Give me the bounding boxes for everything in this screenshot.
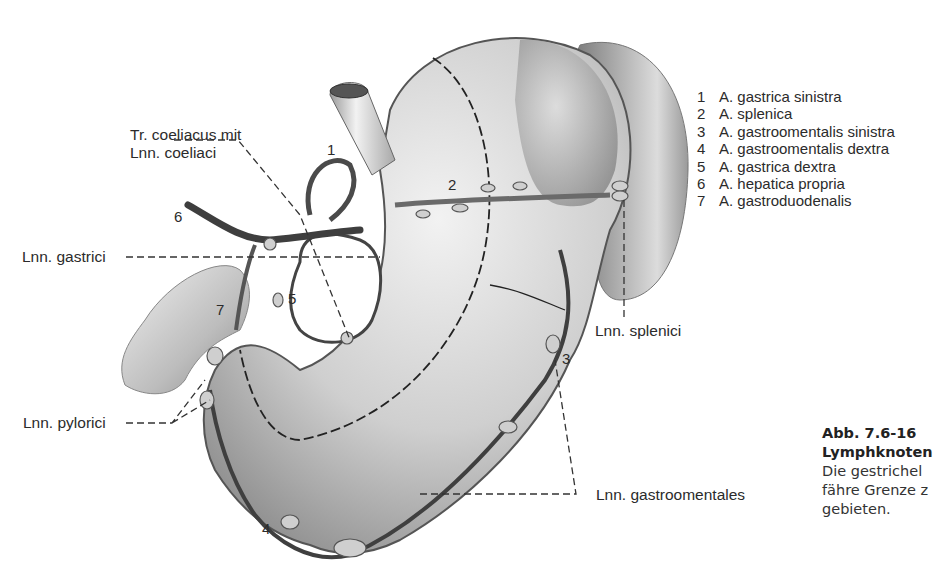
legend-row: 5A. gastrica dextra: [697, 158, 895, 175]
stomach-illustration: [0, 0, 940, 578]
legend-row: 1A. gastrica sinistra: [697, 88, 895, 105]
caption-line-3: gebieten.: [822, 500, 933, 519]
number-1: 1: [327, 141, 335, 158]
figure-caption: Abb. 7.6-16 Lymphknoten Die gestrichel f…: [822, 424, 933, 519]
label-lnn-gastroomentales: Lnn. gastroomentales: [596, 486, 745, 504]
label-tr-coeliacus-line2: Lnn. coeliaci: [130, 144, 241, 162]
label-lnn-pylorici: Lnn. pylorici: [23, 414, 106, 432]
caption-line-2: fähre Grenze z: [822, 481, 933, 500]
number-5: 5: [288, 290, 296, 307]
number-3: 3: [562, 350, 570, 367]
artery-legend: 1A. gastrica sinistra 2A. splenica 3A. g…: [697, 88, 895, 210]
caption-title: Lymphknoten: [822, 443, 933, 462]
label-tr-coeliacus-line1: Tr. coeliacus mit: [130, 126, 241, 144]
legend-row: 7A. gastroduodenalis: [697, 192, 895, 209]
anatomy-figure: Tr. coeliacus mit Lnn. coeliaci Lnn. gas…: [0, 0, 940, 578]
lesser-curvature-window: [291, 234, 381, 342]
number-4: 4: [262, 520, 270, 537]
label-lnn-gastrici: Lnn. gastrici: [22, 248, 106, 266]
caption-figure-number: Abb. 7.6-16: [822, 424, 933, 443]
number-2: 2: [448, 176, 456, 193]
legend-row: 3A. gastroomentalis sinistra: [697, 123, 895, 140]
legend-row: 6A. hepatica propria: [697, 175, 895, 192]
caption-line-1: Die gestrichel: [822, 462, 933, 481]
number-7: 7: [216, 301, 224, 318]
label-tr-coeliacus: Tr. coeliacus mit Lnn. coeliaci: [130, 126, 241, 162]
legend-row: 4A. gastroomentalis dextra: [697, 140, 895, 157]
label-lnn-splenici: Lnn. splenici: [595, 322, 681, 340]
number-6: 6: [174, 208, 182, 225]
legend-row: 2A. splenica: [697, 105, 895, 122]
